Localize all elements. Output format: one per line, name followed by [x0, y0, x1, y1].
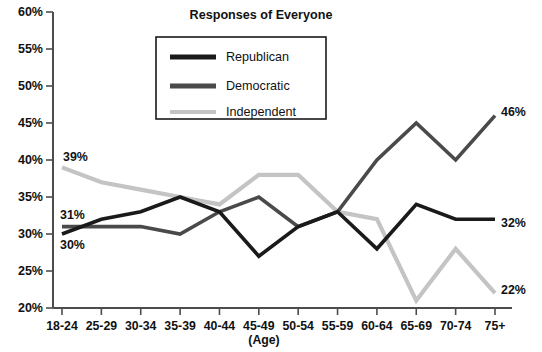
annotation-republican-start: 30%	[60, 238, 85, 252]
x-axis-tick-label: 60-64	[361, 319, 393, 333]
y-axis-tick-label: 40%	[18, 153, 43, 167]
x-axis-title: (Age)	[248, 333, 279, 347]
value-annotations: 39%31%30%46%32%22%	[60, 105, 526, 297]
y-axis-tick-label: 25%	[18, 264, 43, 278]
x-axis-tick-label: 35-39	[164, 319, 196, 333]
legend-label-democratic: Democratic	[226, 79, 290, 93]
y-axis-tick-label: 45%	[18, 116, 43, 130]
y-axis-tick-label: 50%	[18, 79, 43, 93]
x-axis-tick-label: 25-29	[86, 319, 118, 333]
x-axis-labels: 18-2425-2930-3435-3940-4445-4950-5455-59…	[46, 319, 505, 333]
annotation-democratic-end: 46%	[501, 105, 526, 119]
annotation-independent-end: 22%	[501, 283, 526, 297]
y-axis-tick-label: 20%	[18, 301, 43, 315]
annotation-independent-start: 39%	[63, 150, 88, 164]
line-chart: Responses of Everyone 20%25%30%35%40%45%…	[0, 0, 542, 352]
x-axis-tick-label: 40-44	[204, 319, 236, 333]
y-axis-ticks	[46, 12, 53, 308]
x-axis-ticks	[62, 308, 495, 315]
y-axis-tick-label: 55%	[18, 42, 43, 56]
legend-label-republican: Republican	[226, 50, 289, 64]
y-axis-tick-label: 60%	[18, 5, 43, 19]
y-axis-tick-label: 35%	[18, 190, 43, 204]
x-axis-tick-label: 45-49	[243, 319, 275, 333]
x-axis-tick-label: 75+	[485, 319, 506, 333]
chart-legend: RepublicanDemocraticIndependent	[156, 37, 326, 119]
chart-title: Responses of Everyone	[190, 8, 333, 22]
y-axis-labels: 20%25%30%35%40%45%50%55%60%	[18, 5, 43, 315]
x-axis-tick-label: 55-59	[322, 319, 354, 333]
chart-container: Responses of Everyone 20%25%30%35%40%45%…	[0, 0, 542, 352]
x-axis-tick-label: 30-34	[125, 319, 157, 333]
series-line-independent	[62, 167, 495, 300]
annotation-democratic-start: 31%	[60, 208, 85, 222]
data-series-group	[62, 116, 495, 301]
x-axis-tick-label: 18-24	[46, 319, 78, 333]
legend-label-independent: Independent	[226, 105, 297, 119]
annotation-republican-end: 32%	[501, 216, 526, 230]
x-axis-tick-label: 65-69	[401, 319, 433, 333]
x-axis-tick-label: 50-54	[282, 319, 314, 333]
y-axis-tick-label: 30%	[18, 227, 43, 241]
x-axis-tick-label: 70-74	[440, 319, 472, 333]
